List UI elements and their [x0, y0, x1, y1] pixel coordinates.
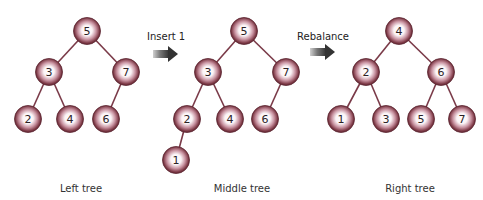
node-value: 4 — [67, 113, 74, 126]
node-value: 1 — [338, 113, 345, 126]
tree-node-6: 6 — [252, 106, 279, 133]
node-value: 6 — [438, 66, 445, 79]
node-value: 2 — [363, 66, 370, 79]
node-value: 7 — [459, 113, 466, 126]
tree-node-3: 3 — [195, 59, 222, 86]
node-value: 4 — [227, 113, 234, 126]
caption-left-tree: Left tree — [60, 183, 102, 194]
caption-middle-tree: Middle tree — [214, 183, 270, 194]
tree-left: 537246 — [15, 18, 140, 133]
tree-node-1: 1 — [328, 106, 355, 133]
node-value: 3 — [205, 66, 212, 79]
rebalance-operation: Rebalance — [297, 31, 349, 60]
tree-node-2: 2 — [15, 106, 42, 133]
node-value: 7 — [283, 66, 290, 79]
node-value: 5 — [241, 25, 248, 38]
tree-node-3: 3 — [373, 106, 400, 133]
node-value: 4 — [396, 25, 403, 38]
tree-right: 4261357 — [328, 18, 476, 133]
caption-right-tree: Right tree — [385, 183, 435, 194]
node-value: 3 — [383, 113, 390, 126]
node-value: 5 — [418, 113, 425, 126]
node-value: 2 — [184, 113, 191, 126]
tree-node-7: 7 — [273, 59, 300, 86]
tree-node-2: 2 — [174, 106, 201, 133]
rebalance-label: Rebalance — [297, 31, 349, 42]
node-value: 2 — [25, 113, 32, 126]
node-value: 1 — [173, 154, 180, 167]
tree-node-5: 5 — [231, 18, 258, 45]
tree-node-6: 6 — [93, 106, 120, 133]
right-arrow-icon — [153, 46, 178, 62]
tree-node-7: 7 — [449, 106, 476, 133]
tree-node-5: 5 — [74, 18, 101, 45]
tree-node-3: 3 — [36, 59, 63, 86]
node-value: 7 — [123, 66, 130, 79]
tree-node-7: 7 — [113, 59, 140, 86]
tree-node-4: 4 — [57, 106, 84, 133]
node-value: 6 — [103, 113, 110, 126]
node-value: 6 — [262, 113, 269, 126]
tree-diagram: 537246 5372461 4261357 Insert 1 Rebalanc… — [0, 0, 483, 200]
right-arrow-icon — [310, 44, 335, 60]
tree-node-6: 6 — [428, 59, 455, 86]
node-value: 5 — [84, 25, 91, 38]
tree-node-4: 4 — [386, 18, 413, 45]
insert-operation: Insert 1 — [147, 31, 185, 62]
tree-node-5: 5 — [408, 106, 435, 133]
tree-node-1: 1 — [163, 147, 190, 174]
tree-node-4: 4 — [217, 106, 244, 133]
node-value: 3 — [46, 66, 53, 79]
insert-label: Insert 1 — [147, 31, 185, 42]
tree-node-2: 2 — [353, 59, 380, 86]
